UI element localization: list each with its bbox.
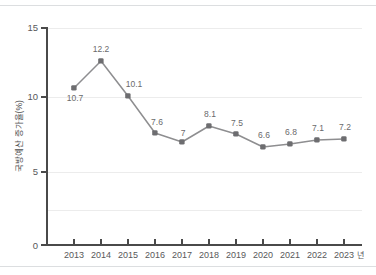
data-point-2014[interactable] [98,58,103,63]
data-point-2021[interactable] [287,141,292,146]
data-label-2017: 7 [181,128,186,138]
y-tick-label-0: 0 [33,240,38,251]
data-label-2018: 8.1 [204,109,216,119]
x-tick-label-2016: 2016 [145,250,165,260]
y-tick-label-5: 5 [33,166,38,177]
x-tick-labels: 2013 2014 2015 2016 2017 2018 2019 2020 … [64,250,364,260]
line-chart-plot: 15 10 5 0 국방예산 증가율(%) 2013 2014 2015 [0,0,376,275]
chart-figure: 15 10 5 0 국방예산 증가율(%) 2013 2014 2015 [0,0,376,275]
data-label-2022: 7.1 [312,123,324,133]
x-axis-unit-label: 년 [357,250,364,260]
y-axis-title: 국방예산 증가율(%) [14,100,24,172]
x-tick-label-2023: 2023 [334,250,354,260]
data-point-2023[interactable] [341,136,346,141]
x-tick-label-2017: 2017 [172,250,192,260]
y-axis [41,27,47,245]
x-tick-label-2014: 2014 [91,250,111,260]
data-label-2013: 10.7 [67,93,84,103]
y-tick-labels: 15 10 5 0 [27,22,38,251]
x-tick-label-2022: 2022 [307,250,327,260]
gridlines-horizontal [47,28,362,210]
data-label-2019: 7.5 [231,118,243,128]
data-point-2020[interactable] [260,144,265,149]
series-markers [71,58,346,149]
x-tick-label-2020: 2020 [253,250,273,260]
y-tick-label-15: 15 [27,22,38,33]
x-tick-label-2021: 2021 [280,250,300,260]
data-point-2022[interactable] [314,137,319,142]
series-line-defense-budget-growth [74,61,344,147]
data-label-2016: 7.6 [151,117,163,127]
x-tick-label-2015: 2015 [118,250,138,260]
data-label-2023: 7.2 [339,122,351,132]
data-label-2015: 10.1 [126,79,143,89]
data-label-2014: 12.2 [93,44,110,54]
y-tick-label-10: 10 [27,91,38,102]
data-label-2020: 6.6 [258,130,270,140]
data-point-2013[interactable] [71,85,76,90]
x-tick-label-2019: 2019 [226,250,246,260]
data-point-2015[interactable] [125,93,130,98]
data-point-2019[interactable] [233,131,238,136]
x-tick-label-2013: 2013 [64,250,84,260]
x-axis [47,239,362,245]
data-label-2021: 6.8 [285,127,297,137]
data-point-2016[interactable] [152,130,157,135]
data-point-2018[interactable] [206,123,211,128]
x-tick-label-2018: 2018 [199,250,219,260]
data-point-2017[interactable] [179,139,184,144]
